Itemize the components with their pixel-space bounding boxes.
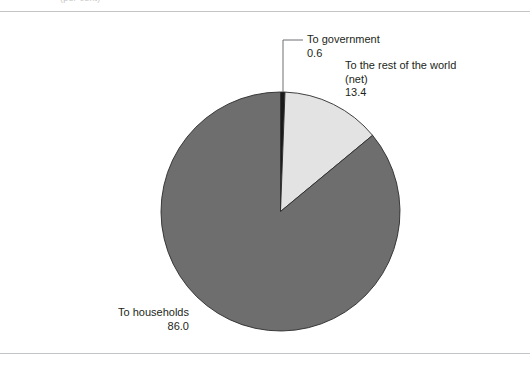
pie-chart-figure: (per cent) To government 0.6 To the rest…: [0, 0, 530, 365]
slice-label-rest-of-world: To the rest of the world (net) 13.4: [345, 59, 495, 100]
slice-label-government: To government 0.6: [307, 33, 380, 60]
slice-value-households: 86.0: [118, 320, 189, 334]
government-leader-line: [283, 40, 303, 92]
slice-label-rest-of-world-line1: To the rest of the world: [345, 59, 456, 71]
slice-label-households-text: To households: [118, 306, 189, 318]
slice-value-rest-of-world: 13.4: [345, 86, 495, 100]
pie-chart-svg: [0, 0, 530, 365]
slice-value-government: 0.6: [307, 47, 380, 61]
slice-label-government-text: To government: [307, 33, 380, 45]
slice-label-households: To households 86.0: [118, 306, 189, 333]
slice-label-rest-of-world-line2: (net): [345, 73, 495, 87]
leader-line-group: [283, 40, 303, 92]
pie-slice-group: [161, 92, 400, 331]
